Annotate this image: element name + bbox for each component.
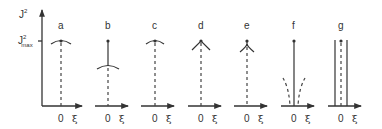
svg-text:ξ: ξ	[305, 113, 311, 124]
panel-label: f	[292, 20, 295, 31]
svg-text:0: 0	[105, 113, 111, 124]
svg-text:0: 0	[291, 113, 297, 124]
panel-label: a	[58, 20, 64, 31]
svg-text:0: 0	[244, 113, 250, 124]
panel-label: c	[152, 20, 157, 31]
panel-label: e	[244, 20, 250, 31]
panel-f: f 0 ξ	[281, 20, 314, 124]
panel-label: d	[198, 20, 204, 31]
svg-text:ξ: ξ	[352, 113, 358, 124]
panel-label: g	[338, 20, 344, 31]
svg-text:0: 0	[58, 113, 64, 124]
panel-label: b	[105, 20, 111, 31]
jmax-label: J2max	[18, 34, 33, 48]
y-axis: J2 J2max	[18, 8, 42, 106]
panel-d: d 0 ξ	[188, 20, 221, 124]
phase-diagram-figure: J2 J2max a 0 ξ b 0 ξ c 0 ξ d	[0, 0, 382, 129]
y-axis-label: J2	[19, 8, 28, 20]
panel-g: g 0 ξ	[328, 20, 361, 124]
svg-text:ξ: ξ	[119, 113, 125, 124]
svg-text:0: 0	[338, 113, 344, 124]
svg-text:ξ: ξ	[212, 113, 218, 124]
panel-c: c 0 ξ	[141, 20, 174, 124]
panel-b: b 0 ξ	[95, 20, 128, 124]
svg-text:ξ: ξ	[166, 113, 172, 124]
svg-text:ξ: ξ	[72, 113, 78, 124]
svg-text:ξ: ξ	[258, 113, 264, 124]
panel-a: a 0 ξ	[42, 20, 82, 124]
panel-e: e 0 ξ	[234, 20, 267, 124]
svg-text:0: 0	[198, 113, 204, 124]
svg-text:0: 0	[152, 113, 158, 124]
